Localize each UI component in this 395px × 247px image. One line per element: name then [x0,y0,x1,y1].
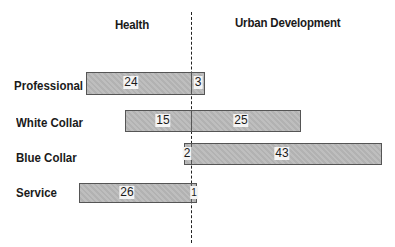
value-blue-collar-urban: 43 [274,147,289,160]
value-blue-collar-health: 2 [183,147,192,160]
value-professional-urban: 3 [194,76,203,89]
value-professional-health: 24 [123,76,138,89]
value-service-health: 26 [119,186,134,199]
row-label-blue-collar: Blue Collar [16,151,77,165]
row-label-white-collar: White Collar [16,116,83,130]
bar-professional-health [86,72,192,95]
header-urban-development: Urban Development [235,16,341,30]
value-white-collar-health: 15 [155,114,170,127]
value-white-collar-urban: 25 [233,114,248,127]
header-health: Health [115,18,149,32]
value-service-urban: 1 [190,186,198,199]
row-label-service: Service [16,186,57,200]
row-label-professional: Professional [14,79,83,93]
bar-service-health [79,183,192,203]
